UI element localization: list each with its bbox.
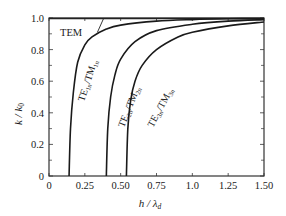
x-tick-label: 0 xyxy=(46,180,51,191)
x-tick-label: 0.25 xyxy=(76,180,94,191)
x-axis-title: h / λd xyxy=(139,197,162,211)
te3-tm3-label: TE3n/TM3n xyxy=(145,85,176,129)
te1-tm1-label: TE1n/TM1n xyxy=(75,58,100,103)
y-tick-label: 1.0 xyxy=(31,13,44,24)
y-tick-label: 0.6 xyxy=(31,76,44,87)
x-tick-label: 1.50 xyxy=(255,180,273,191)
curve-te3n-tm3n xyxy=(126,22,264,176)
y-tick-label: 0 xyxy=(39,171,44,182)
x-tick-label: 0.50 xyxy=(111,180,129,191)
y-axis-title: k / k0 xyxy=(12,103,26,125)
chart: 00.250.500.751.01.251.5000.20.40.60.81.0… xyxy=(0,0,286,216)
y-tick-label: 0.4 xyxy=(31,108,45,119)
te2-tm2-label: TE2n/TM2n xyxy=(116,84,144,129)
x-tick-label: 1.25 xyxy=(219,180,237,191)
x-tick-label: 1.0 xyxy=(186,180,199,191)
x-tick-label: 0.75 xyxy=(147,180,165,191)
tem-label: TEM xyxy=(60,27,83,38)
y-tick-label: 0.2 xyxy=(31,139,44,150)
y-tick-label: 0.8 xyxy=(31,45,44,56)
axis-ticks: 00.250.500.751.01.251.5000.20.40.60.81.0 xyxy=(31,13,273,191)
